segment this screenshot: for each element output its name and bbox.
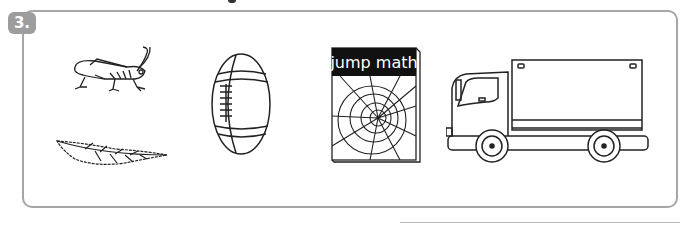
book-icon: jump math [330,46,422,164]
football-icon [210,52,272,156]
exercise-number-badge: 3. [8,12,36,34]
truck-icon [446,58,651,168]
bottom-rule [400,222,680,223]
book-title: jump math [330,53,418,72]
page-top-mark [228,0,236,3]
grasshopper-icon [65,45,155,95]
leaf-icon [55,137,170,169]
